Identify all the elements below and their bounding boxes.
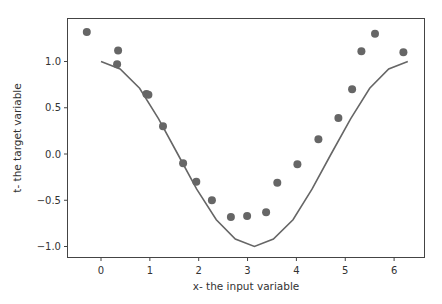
model-curve-line	[101, 62, 408, 247]
x-tick-label: 3	[244, 265, 250, 276]
x-tick-label: 2	[196, 265, 202, 276]
x-axis-ticks: 0123456	[98, 258, 397, 277]
y-tick-label: 0.5	[45, 102, 61, 113]
plot-area	[83, 28, 408, 247]
x-tick-label: 5	[342, 265, 348, 276]
x-axis-label: x- the input variable	[193, 280, 300, 292]
data-point	[243, 212, 251, 220]
data-point	[83, 28, 91, 36]
axes-frame	[68, 19, 425, 258]
data-point	[399, 48, 407, 56]
data-point	[159, 122, 167, 130]
data-point	[348, 85, 356, 93]
data-point	[357, 47, 365, 55]
data-point	[262, 208, 270, 216]
y-axis-ticks: 1.00.50.0−0.5−1.0	[37, 56, 68, 252]
x-tick-label: 6	[391, 265, 397, 276]
data-point	[334, 114, 342, 122]
data-point	[227, 213, 235, 221]
y-tick-label: 1.0	[45, 56, 61, 67]
x-tick-label: 4	[293, 265, 299, 276]
y-tick-label: −0.5	[37, 195, 61, 206]
x-tick-label: 1	[147, 265, 153, 276]
data-point	[293, 160, 301, 168]
data-point	[314, 135, 322, 143]
y-tick-label: −1.0	[37, 241, 61, 252]
data-point	[113, 60, 121, 68]
x-tick-label: 0	[98, 265, 104, 276]
y-tick-label: 0.0	[45, 149, 61, 160]
data-point	[144, 91, 152, 99]
data-point	[371, 30, 379, 38]
data-point	[192, 178, 200, 186]
chart: 0123456 1.00.50.0−0.5−1.0 x- the input v…	[0, 0, 442, 304]
data-point	[114, 46, 122, 54]
data-point	[179, 159, 187, 167]
data-point	[208, 196, 216, 204]
y-axis-label: t- the target variable	[11, 83, 23, 192]
data-point	[273, 179, 281, 187]
